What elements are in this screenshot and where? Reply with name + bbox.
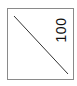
value-label: 100 <box>53 15 69 45</box>
